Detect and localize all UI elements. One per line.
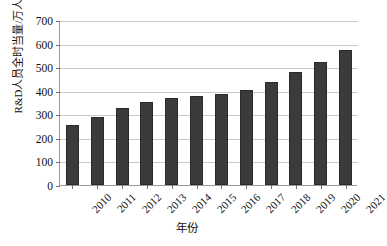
x-axis-tick-mark xyxy=(271,185,272,189)
bar xyxy=(91,117,104,185)
bar xyxy=(240,90,253,185)
bar xyxy=(190,96,203,185)
y-axis-tick-label: 600 xyxy=(36,39,53,51)
y-axis-title: R&D人员全时当量/万人 xyxy=(9,0,25,136)
gridline xyxy=(60,21,358,22)
x-axis-tick-label: 2014 xyxy=(189,191,213,215)
y-axis-tick-label: 400 xyxy=(36,86,53,98)
bar xyxy=(116,108,129,185)
y-axis-tick-label: 100 xyxy=(36,156,53,168)
gridline xyxy=(60,45,358,46)
y-axis-tick-label: 0 xyxy=(47,180,53,192)
x-axis-tick-label: 2016 xyxy=(239,191,263,215)
y-axis-tick-label: 700 xyxy=(36,15,53,27)
x-axis-title: 年份 xyxy=(0,219,373,235)
y-axis-tick-mark xyxy=(56,139,60,140)
y-axis-tick-label: 300 xyxy=(36,109,53,121)
x-axis-tick-label: 2012 xyxy=(140,191,164,215)
bar xyxy=(339,50,352,185)
bar xyxy=(165,98,178,185)
bar xyxy=(314,62,327,185)
bar xyxy=(289,72,302,185)
x-axis-tick-mark xyxy=(172,185,173,189)
x-axis-tick-label: 2015 xyxy=(214,191,238,215)
x-axis-tick-mark xyxy=(321,185,322,189)
bar xyxy=(265,82,278,185)
y-axis-tick-mark xyxy=(56,162,60,163)
x-axis-tick-mark xyxy=(122,185,123,189)
y-axis-tick-mark xyxy=(56,45,60,46)
x-axis-tick-label: 2019 xyxy=(313,191,337,215)
plot-area: 0100200300400500600700201020112012201320… xyxy=(59,21,357,186)
x-axis-tick-label: 2013 xyxy=(164,191,188,215)
x-axis-tick-label: 2020 xyxy=(338,191,362,215)
x-axis-tick-mark xyxy=(197,185,198,189)
x-axis-tick-mark xyxy=(97,185,98,189)
y-axis-tick-label: 500 xyxy=(36,62,53,74)
x-axis-tick-mark xyxy=(72,185,73,189)
y-axis-tick-mark xyxy=(56,68,60,69)
y-axis-tick-mark xyxy=(56,115,60,116)
x-axis-tick-mark xyxy=(221,185,222,189)
x-axis-tick-mark xyxy=(246,185,247,189)
x-axis-tick-label: 2017 xyxy=(264,191,288,215)
x-axis-tick-mark xyxy=(296,185,297,189)
y-axis-tick-label: 200 xyxy=(36,133,53,145)
y-axis-tick-mark xyxy=(56,21,60,22)
bar xyxy=(215,94,228,185)
x-axis-tick-label: 2018 xyxy=(289,191,313,215)
bar xyxy=(66,125,79,185)
x-axis-tick-mark xyxy=(346,185,347,189)
x-axis-tick-mark xyxy=(147,185,148,189)
x-axis-tick-label: 2010 xyxy=(90,191,114,215)
y-axis-tick-mark xyxy=(56,186,60,187)
bar xyxy=(140,102,153,185)
x-axis-tick-label: 2011 xyxy=(115,191,139,215)
y-axis-tick-mark xyxy=(56,92,60,93)
x-axis-tick-label: 2021 xyxy=(363,191,387,215)
